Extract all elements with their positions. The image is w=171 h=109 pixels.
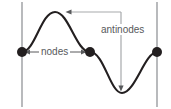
node-dot-middle: [85, 47, 95, 57]
antinodes-label: antinodes: [99, 24, 146, 35]
antinodes-arrowhead-trough: [118, 86, 123, 92]
wave-graphic: [0, 0, 171, 109]
nodes-label: nodes: [39, 46, 70, 57]
standing-wave-diagram: nodes antinodes: [0, 0, 171, 109]
node-dot-left: [17, 47, 27, 57]
antinodes-arrowhead-crest: [66, 9, 72, 14]
node-dot-right: [152, 47, 162, 57]
